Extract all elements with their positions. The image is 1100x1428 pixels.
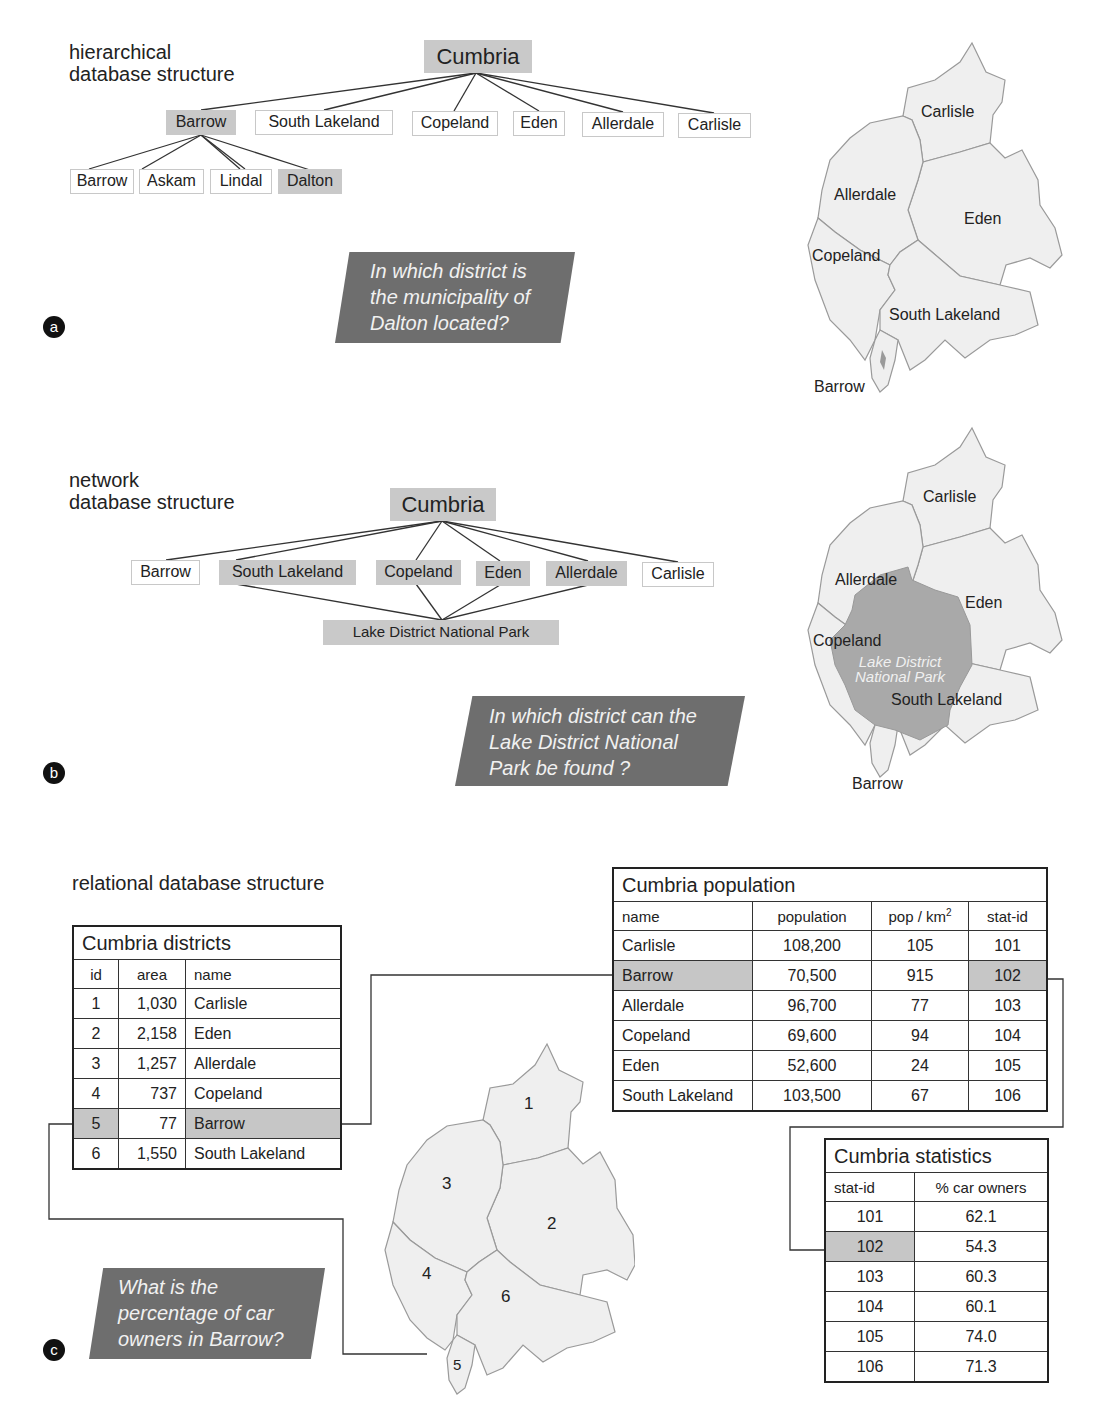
cell-area: 2,158: [119, 1019, 186, 1049]
map-label-barrow: Barrow: [814, 378, 865, 396]
map-number-2: 2: [547, 1214, 556, 1234]
cell-density: 67: [872, 1081, 969, 1112]
density-superscript: 2: [946, 907, 952, 918]
cell-area: 737: [119, 1079, 186, 1109]
node-eden: Eden: [476, 561, 530, 586]
map-label-barrow: Barrow: [852, 775, 903, 793]
title-line-1: hierarchical: [69, 41, 235, 63]
map-number-1: 1: [524, 1094, 533, 1114]
cell-id: 4: [73, 1079, 119, 1109]
cumbria-map-c: 1 2 3 4 6 5: [375, 1040, 635, 1400]
cell-car-owners: 54.3: [915, 1232, 1049, 1262]
table-row: Copeland69,60094104: [613, 1021, 1047, 1051]
column-header-name: name: [613, 902, 753, 931]
cell-stat-id: 102: [825, 1232, 915, 1262]
question-line: What is the: [118, 1274, 284, 1300]
park-label-line: National Park: [855, 669, 945, 684]
map-label-allerdale: Allerdale: [834, 186, 896, 204]
section-title-relational: relational database structure: [72, 872, 324, 894]
population-table-title: Cumbria population: [613, 868, 1047, 902]
cell-density: 24: [872, 1051, 969, 1081]
column-header-stat-id: stat-id: [969, 902, 1048, 931]
map-number-5: 5: [453, 1356, 461, 1373]
map-outline-b: [800, 425, 1080, 795]
column-header-car-owners: % car owners: [915, 1173, 1049, 1202]
question-box-c: What is the percentage of car owners in …: [89, 1268, 325, 1359]
question-line: In which district is: [370, 258, 530, 284]
cell-name: South Lakeland: [186, 1139, 342, 1170]
cell-population: 108,200: [753, 931, 872, 961]
column-header-name: name: [186, 960, 342, 989]
table-row: 10574.0: [825, 1322, 1048, 1352]
map-number-6: 6: [501, 1287, 510, 1307]
table-row: South Lakeland103,50067106: [613, 1081, 1047, 1112]
districts-table-title: Cumbria districts: [73, 926, 341, 960]
column-header-population: population: [753, 902, 872, 931]
question-line: In which district can the: [489, 703, 697, 729]
cell-stat-id: 103: [969, 991, 1048, 1021]
node-carlisle: Carlisle: [678, 113, 751, 138]
node-copeland: Copeland: [376, 560, 461, 585]
table-row: 61,550South Lakeland: [73, 1139, 341, 1170]
park-label-line: Lake District: [855, 654, 945, 669]
cell-name: Barrow: [186, 1109, 342, 1139]
cell-name: Allerdale: [186, 1049, 342, 1079]
cell-name: Carlisle: [186, 989, 342, 1019]
cell-population: 52,600: [753, 1051, 872, 1081]
cell-name: Copeland: [186, 1079, 342, 1109]
column-header-stat-id: stat-id: [825, 1173, 915, 1202]
node-eden: Eden: [513, 111, 565, 136]
node-lake-district-national-park: Lake District National Park: [323, 620, 559, 645]
title-line-2: database structure: [69, 63, 235, 85]
cell-stat-id: 105: [969, 1051, 1048, 1081]
node-barrow: Barrow: [166, 110, 236, 135]
cell-name: Carlisle: [613, 931, 753, 961]
map-label-allerdale: Allerdale: [835, 571, 897, 589]
title-line-2: database structure: [69, 491, 235, 513]
cell-name: Allerdale: [613, 991, 753, 1021]
density-label: pop / km: [888, 908, 946, 925]
cell-area: 1,030: [119, 989, 186, 1019]
cell-id: 3: [73, 1049, 119, 1079]
table-row: Carlisle108,200105101: [613, 931, 1047, 961]
question-box-b: In which district can the Lake District …: [455, 696, 745, 786]
cumbria-map-a: Carlisle Allerdale Eden Copeland South L…: [800, 40, 1080, 410]
population-table: Cumbria population name population pop /…: [612, 867, 1048, 1112]
column-header-density: pop / km2: [872, 902, 969, 931]
map-outline-a: [800, 40, 1080, 410]
section-title-hierarchical: hierarchical database structure: [69, 41, 235, 85]
question-text-a: In which district is the municipality of…: [370, 258, 530, 336]
table-row: 10671.3: [825, 1352, 1048, 1383]
question-line: Park be found ?: [489, 755, 697, 781]
map-label-lake-district-national-park: Lake District National Park: [855, 654, 945, 684]
table-row: 10360.3: [825, 1262, 1048, 1292]
node-allerdale: Allerdale: [582, 112, 664, 137]
node-root-cumbria: Cumbria: [390, 488, 496, 521]
table-row: 4737Copeland: [73, 1079, 341, 1109]
map-label-carlisle: Carlisle: [921, 103, 974, 121]
cell-density: 94: [872, 1021, 969, 1051]
map-label-eden: Eden: [965, 594, 1002, 612]
section-badge-a: a: [43, 316, 65, 338]
map-label-eden: Eden: [964, 210, 1001, 228]
cell-stat-id: 104: [969, 1021, 1048, 1051]
statistics-table: Cumbria statistics stat-id % car owners …: [824, 1138, 1049, 1383]
map-label-copeland: Copeland: [812, 247, 881, 265]
node-carlisle: Carlisle: [642, 562, 714, 587]
cell-car-owners: 74.0: [915, 1322, 1049, 1352]
question-line: percentage of car: [118, 1300, 284, 1326]
cell-population: 69,600: [753, 1021, 872, 1051]
cell-stat-id: 103: [825, 1262, 915, 1292]
cell-car-owners: 71.3: [915, 1352, 1049, 1383]
cell-name: Eden: [186, 1019, 342, 1049]
map-number-3: 3: [442, 1174, 451, 1194]
question-text-c: What is the percentage of car owners in …: [118, 1274, 284, 1352]
node-dalton: Dalton: [278, 169, 342, 194]
cell-id: 2: [73, 1019, 119, 1049]
map-number-4: 4: [422, 1264, 431, 1284]
section-badge-c: c: [43, 1339, 65, 1361]
question-text-b: In which district can the Lake District …: [489, 703, 697, 781]
question-line: Lake District National: [489, 729, 697, 755]
cell-car-owners: 60.3: [915, 1262, 1049, 1292]
map-label-carlisle: Carlisle: [923, 488, 976, 506]
